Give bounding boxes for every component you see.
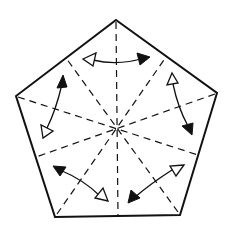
arrow-upper-right — [167, 73, 193, 135]
open-arrowhead-icon — [83, 53, 96, 66]
fold-line-vertical — [116, 22, 118, 215]
open-arrowhead-icon — [170, 165, 184, 176]
filled-arrowhead-icon — [137, 53, 150, 65]
arrow-lower-left — [53, 166, 108, 201]
filled-arrowhead-icon — [128, 190, 140, 203]
fold-line-left-to-lowerright — [18, 97, 198, 155]
arrow-upper-left — [41, 75, 67, 138]
fold-line-bottomleft-to-upperright — [57, 57, 166, 214]
pentagon-fold-diagram — [0, 0, 231, 230]
open-arrowhead-icon — [95, 188, 108, 201]
fold-line-bottomright-to-upperleft — [66, 58, 178, 212]
fold-lines — [18, 22, 215, 215]
open-arrowhead-icon — [167, 73, 178, 85]
arrow-lower-right — [128, 165, 184, 203]
filled-arrowhead-icon — [182, 123, 193, 135]
filled-arrowhead-icon — [53, 166, 66, 176]
filled-arrowhead-icon — [57, 75, 67, 88]
